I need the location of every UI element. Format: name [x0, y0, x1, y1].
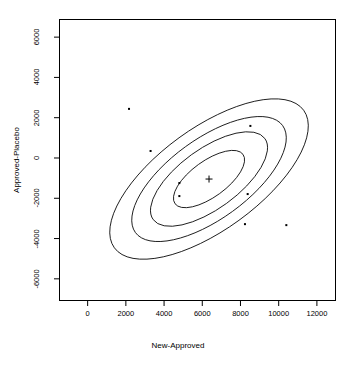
- y-tick-label: -2000: [33, 189, 41, 208]
- y-tick-label: -6000: [33, 269, 41, 288]
- y-tick-label: -4000: [33, 229, 41, 248]
- y-axis-title: Approved-Placebo: [12, 127, 21, 193]
- y-tick-label: 2000: [33, 109, 41, 126]
- x-tick-label: 0: [86, 310, 90, 318]
- x-tick-label: 12000: [306, 310, 327, 318]
- y-tick-label: 0: [33, 156, 41, 160]
- x-tick-label: 10000: [268, 310, 289, 318]
- x-tick-label: 6000: [194, 310, 211, 318]
- y-tick-label: 4000: [33, 69, 41, 86]
- x-axis-ticks: [88, 301, 317, 306]
- x-axis-title: New-Approved: [152, 341, 205, 350]
- x-tick-label: 2000: [118, 310, 135, 318]
- x-tick-label: 8000: [232, 310, 249, 318]
- y-tick-label: 6000: [33, 29, 41, 46]
- scatter-plot-figure: 020004000600080001000012000 600040002000…: [0, 0, 356, 365]
- x-tick-label: 4000: [156, 310, 173, 318]
- plot-area-border: [59, 19, 336, 301]
